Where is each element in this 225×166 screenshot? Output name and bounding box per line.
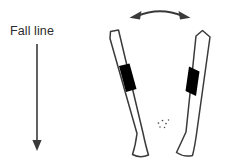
snow-speck [165, 123, 167, 125]
left-ski-outline [110, 30, 149, 157]
fall-line-arrow-head [32, 140, 41, 151]
ski-wedge-figure: Fall line [0, 0, 225, 166]
left-ski [110, 30, 149, 157]
snow-speck [158, 122, 160, 124]
fall-line-arrow-group [32, 44, 41, 151]
snow-speck [159, 126, 161, 128]
snow-speck [164, 127, 166, 129]
fall-line-label: Fall line [10, 24, 54, 38]
pivot-arrow-arc [137, 11, 183, 16]
snow-spray-speckles [158, 119, 170, 128]
pivot-arrow-head-left [130, 11, 142, 20]
snow-speck [168, 119, 169, 120]
pivot-arrow-head-right [179, 11, 191, 20]
right-ski [177, 31, 211, 157]
snow-speck [162, 120, 164, 122]
pivot-arrow-group [130, 11, 191, 20]
